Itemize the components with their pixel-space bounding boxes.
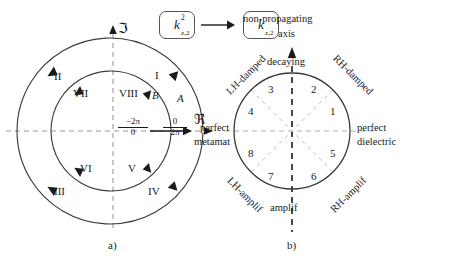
arrowhead-outer-IV: [167, 180, 178, 190]
quadrant-label-V: V: [128, 163, 136, 174]
quadrant-label-III: III: [54, 186, 65, 197]
sector-number-6: 6: [311, 171, 317, 182]
figure-root: k2z,2 kz,2: [0, 0, 452, 261]
panel-b: non-propagating axis decaying amplif per…: [226, 0, 452, 261]
arrowhead-inner-V: [142, 162, 152, 172]
branch-values-left: −2π 0: [118, 117, 148, 138]
sector-number-2: 2: [311, 84, 317, 95]
arrowhead-outer-I: [168, 71, 179, 82]
quadrant-label-I: I: [155, 70, 159, 81]
quadrant-label-VIII: VIII: [119, 88, 138, 99]
branch-right-numerator: 0: [173, 116, 178, 126]
quadrant-label-VI: VI: [80, 163, 92, 174]
sector-number-7: 7: [268, 171, 274, 182]
sector-number-3: 3: [268, 84, 274, 95]
label-perfect-metamat-line1: perfect: [200, 123, 229, 134]
sector-number-8: 8: [248, 148, 254, 159]
sector-number-4: 4: [248, 106, 254, 117]
panel-a: ℑ ℜ I II III IV V VI VII VIII A B −2π 0 …: [0, 0, 226, 261]
label-perfect-dielectric-line1: perfect: [357, 123, 386, 134]
branch-left-numerator: −2π: [126, 116, 140, 126]
sector-number-1: 1: [330, 106, 336, 117]
inner-circle-label-B: B: [152, 90, 159, 101]
branch-right-denominator: 2π: [170, 127, 179, 137]
label-perfect-metamat-line2: metamat: [194, 137, 230, 148]
panel-a-graphics: [0, 0, 226, 261]
label-decaying: decaying: [267, 57, 305, 68]
imaginary-axis-arrowhead: [109, 25, 117, 34]
panel-b-caption: b): [287, 240, 296, 251]
panel-a-caption: a): [108, 240, 117, 251]
axis-title-line2: axis: [278, 29, 295, 40]
quadrant-label-IV: IV: [148, 186, 160, 197]
quadrant-label-II: II: [54, 71, 61, 82]
branch-values-right: 0 2π: [163, 117, 187, 138]
branch-left-denominator: 0: [131, 127, 136, 137]
label-amplif: amplif: [270, 203, 297, 214]
label-perfect-dielectric-line2: dielectric: [357, 137, 396, 148]
quadrant-label-VII: VII: [73, 88, 88, 99]
panel-b-graphics: [226, 0, 452, 261]
imaginary-axis-label: ℑ: [118, 21, 128, 35]
outer-circle-label-A: A: [177, 93, 184, 104]
sector-number-5: 5: [330, 148, 336, 159]
axis-title-line1: non-propagating: [243, 14, 312, 25]
